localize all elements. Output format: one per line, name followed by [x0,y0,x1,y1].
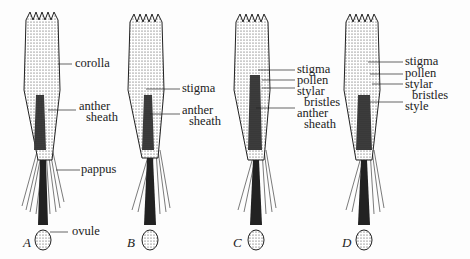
floret-d [344,14,403,250]
label-sheath-a: sheath [86,112,118,123]
panel-letter-d: D [342,235,351,251]
panel-letter-b: B [127,235,135,251]
floret-illustrations [0,0,470,259]
label-corolla-a: corolla [75,58,110,69]
label-sheath-c: sheath [304,119,336,130]
floret-a [22,12,80,250]
label-stigma-b: stigma [182,83,215,94]
floret-diagram: corolla anther sheath pappus ovule A sti… [0,0,470,259]
floret-c [234,14,295,250]
label-ovule-a: ovule [72,226,100,237]
panel-letter-a: A [23,235,31,251]
label-sheath-b: sheath [189,116,221,127]
floret-b [128,14,180,250]
label-style-d: style [405,101,429,112]
label-pappus-a: pappus [81,164,116,175]
panel-letter-c: C [233,235,242,251]
